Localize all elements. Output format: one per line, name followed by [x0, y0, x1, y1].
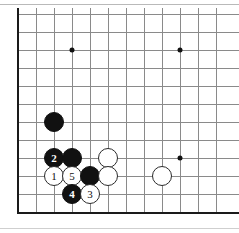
star-point-upper-left — [70, 48, 75, 53]
go-diagram-screenshot: 21543 — [0, 0, 239, 233]
board-grid-line-vertical — [126, 8, 127, 212]
figure-top-rule — [0, 4, 239, 5]
white-stone-move-1[interactable]: 1 — [44, 166, 64, 186]
black-stone-plain-3[interactable] — [80, 166, 100, 186]
board-grid-line-vertical — [144, 8, 145, 212]
board-edge-bottom — [17, 212, 239, 214]
board-grid-line-horizontal — [18, 14, 239, 15]
black-stone-move-2[interactable]: 2 — [44, 148, 64, 168]
star-point-upper-right — [178, 48, 183, 53]
board-grid-line-horizontal — [18, 104, 239, 105]
figure-bottom-rule — [0, 228, 239, 229]
board-grid-line-vertical — [180, 8, 181, 212]
board-edge-left — [17, 8, 19, 214]
board-grid-line-horizontal — [18, 86, 239, 87]
board-grid-line-horizontal — [18, 68, 239, 69]
stone-move-number: 2 — [51, 153, 57, 164]
white-stone-plain-2[interactable] — [98, 166, 118, 186]
board-grid-line-horizontal — [18, 32, 239, 33]
white-stone-plain-1[interactable] — [98, 148, 118, 168]
stone-move-number: 3 — [87, 189, 93, 200]
black-stone-plain-1[interactable] — [44, 112, 64, 132]
stone-move-number: 5 — [69, 171, 75, 182]
board-grid-line-horizontal — [18, 140, 239, 141]
board-grid-line-vertical — [36, 8, 37, 212]
white-stone-plain-3[interactable] — [152, 166, 172, 186]
stone-move-number: 1 — [51, 171, 57, 182]
white-stone-move-5[interactable]: 5 — [62, 166, 82, 186]
board-grid-line-horizontal — [18, 50, 239, 51]
board-grid-line-vertical — [216, 8, 217, 212]
white-stone-move-3[interactable]: 3 — [80, 184, 100, 204]
black-stone-move-4[interactable]: 4 — [62, 184, 82, 204]
stone-move-number: 4 — [69, 189, 75, 200]
star-point-lower-right — [178, 156, 183, 161]
black-stone-plain-2[interactable] — [62, 148, 82, 168]
go-board[interactable]: 21543 — [0, 0, 239, 233]
board-grid-line-horizontal — [18, 194, 239, 195]
board-grid-line-vertical — [198, 8, 199, 212]
